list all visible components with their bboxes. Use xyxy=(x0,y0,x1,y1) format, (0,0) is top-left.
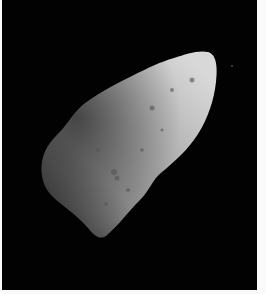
photo-frame xyxy=(2,0,257,290)
asteroid-image xyxy=(2,0,257,290)
star-speck xyxy=(231,65,233,67)
